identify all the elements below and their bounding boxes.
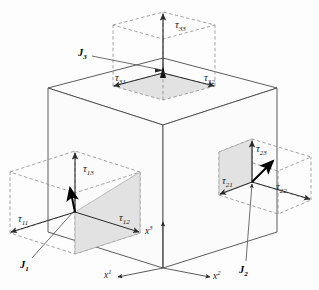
- tau11-label: τ11: [18, 213, 28, 227]
- x1-axis-label: x1: [103, 268, 111, 280]
- x2-axis-label: x2: [212, 269, 221, 281]
- J2-label: J2: [238, 264, 248, 278]
- stress-cube-svg: τ33 τ31 τ32 J3 τ13 τ11 τ12 J1 τ23 τ21 τ2…: [0, 0, 319, 290]
- tau22-label: τ22: [276, 181, 287, 195]
- J3-label: J3: [77, 47, 87, 61]
- x2-axis: [163, 268, 210, 277]
- figure-canvas: τ33 τ31 τ32 J3 τ13 τ11 τ12 J1 τ23 τ21 τ2…: [0, 0, 319, 290]
- tau33-label: τ33: [175, 19, 186, 33]
- x1-axis: [118, 268, 163, 277]
- J1-label: J1: [19, 259, 29, 273]
